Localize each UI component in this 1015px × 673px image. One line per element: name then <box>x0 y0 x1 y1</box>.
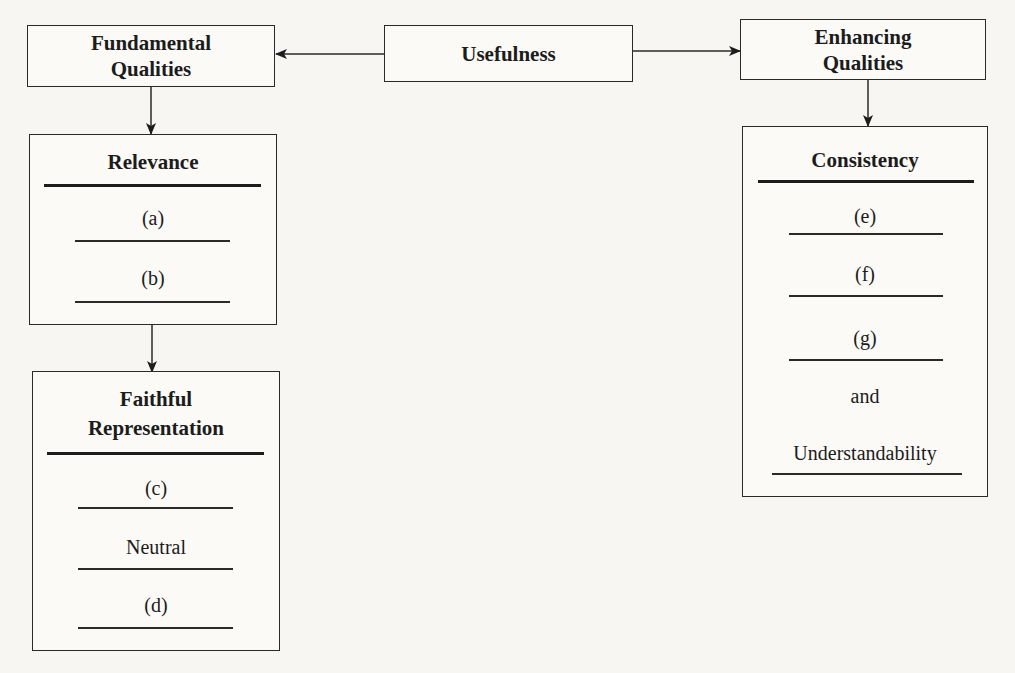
blank-b-label: (b) <box>30 267 276 290</box>
usefulness-box: Usefulness <box>384 25 633 82</box>
consistency-title: Consistency <box>743 147 987 173</box>
and-label: and <box>743 385 987 408</box>
blank-b-line[interactable] <box>75 301 230 303</box>
understandability-line <box>772 473 962 475</box>
blank-e-label: (e) <box>743 205 987 228</box>
neutral-line <box>78 568 233 570</box>
neutral-label: Neutral <box>33 536 279 559</box>
enhancing-qualities-box: Enhancing Qualities <box>740 19 986 80</box>
blank-e-line[interactable] <box>789 233 943 235</box>
consistency-box: Consistency (e) (f) (g) and Understandab… <box>742 126 988 497</box>
faithful-representation-box: Faithful Representation (c) Neutral (d) <box>32 371 280 651</box>
blank-f-line[interactable] <box>789 295 943 297</box>
blank-d-line[interactable] <box>78 627 233 629</box>
blank-d-label: (d) <box>33 594 279 617</box>
blank-g-label: (g) <box>743 327 987 350</box>
faithful-title-line1: Faithful <box>33 386 279 412</box>
blank-a-line[interactable] <box>75 240 230 242</box>
relevance-title: Relevance <box>30 149 276 175</box>
blank-a-label: (a) <box>30 207 276 230</box>
enhancing-line1: Enhancing <box>815 24 912 50</box>
blank-c-label: (c) <box>33 477 279 500</box>
blank-g-line[interactable] <box>789 359 943 361</box>
fundamental-line2: Qualities <box>111 56 192 82</box>
usefulness-label: Usefulness <box>461 41 556 67</box>
consistency-divider <box>758 180 974 183</box>
blank-f-label: (f) <box>743 263 987 286</box>
faithful-title-line2: Representation <box>33 415 279 441</box>
fundamental-qualities-box: Fundamental Qualities <box>27 25 275 87</box>
blank-c-line[interactable] <box>78 507 233 509</box>
relevance-divider <box>44 184 261 187</box>
understandability-label: Understandability <box>743 442 987 465</box>
enhancing-line2: Qualities <box>823 50 904 76</box>
faithful-divider <box>47 452 264 455</box>
relevance-box: Relevance (a) (b) <box>29 134 277 325</box>
fundamental-line1: Fundamental <box>91 30 211 56</box>
